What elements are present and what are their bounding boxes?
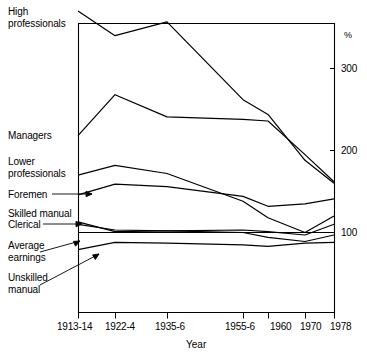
x-axis-title: Year	[186, 339, 206, 350]
series-label-average-earnings: Averageearnings	[8, 240, 46, 263]
series-line-unskilled-manual	[78, 242, 334, 249]
series-label-managers: Managers	[8, 130, 52, 142]
series-label-unskilled-manual: Unskilledmanual	[8, 272, 48, 295]
series-label-clerical: Clerical	[8, 219, 41, 231]
x-tick-label-5: 1970	[300, 321, 321, 332]
x-tick-label-0: 1913-14	[57, 321, 92, 332]
x-tick-label-1: 1922-4	[105, 321, 135, 332]
leader-line-unskilled-manual	[40, 254, 99, 285]
plot-frame	[79, 23, 335, 313]
chart-figure: Highprofessionals Managers Lowerprofessi…	[0, 0, 367, 354]
series-line-lower-professionals	[78, 165, 334, 232]
series-label-lower-professionals: Lowerprofessionals	[8, 156, 66, 179]
series-label-high-professionals: Highprofessionals	[8, 6, 66, 29]
x-tick-label-2: 1935-6	[155, 321, 185, 332]
x-tick-label-4: 1960	[270, 321, 291, 332]
leader-lines-group	[40, 191, 99, 285]
series-label-skilled-manual: Skilled manual	[8, 208, 72, 220]
y-tick-label-100: 100	[341, 227, 357, 238]
series-label-foremen: Foremen	[8, 189, 47, 201]
series-line-high-professionals	[78, 11, 334, 183]
data-series-group	[78, 11, 334, 250]
x-axis-ticks	[79, 313, 335, 319]
y-tick-label-200: 200	[341, 145, 357, 156]
leader-arrow-unskilled-manual	[93, 254, 99, 260]
x-tick-label-3: 1955-6	[225, 321, 255, 332]
y-axis-unit-label: %	[344, 30, 352, 40]
x-tick-label-6: 1978	[330, 321, 351, 332]
series-line-managers	[78, 95, 334, 182]
y-tick-label-300: 300	[341, 63, 357, 74]
